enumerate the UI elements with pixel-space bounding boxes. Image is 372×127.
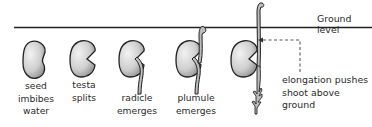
annotation-line: shoot above [282, 87, 368, 100]
label-line: imbibes [13, 93, 59, 106]
seed-stage-elongation [231, 3, 264, 114]
seed-stage-plumule [176, 26, 206, 94]
stage-label-testa: testa splits [64, 79, 104, 104]
annotation-line: elongation pushes [282, 74, 368, 87]
label-line: emerges [113, 105, 161, 118]
plumule-shoot [198, 26, 206, 63]
label-line: testa [64, 79, 104, 92]
stage-label-radicle: radicle emerges [113, 92, 161, 117]
ground-level-label: Ground level [317, 13, 372, 35]
stage-label-imbibes: seed imbibes water [13, 80, 59, 118]
elongated-shoot [257, 3, 264, 68]
label-line: seed [13, 80, 59, 93]
elongation-annotation: elongation pushes shoot above ground [282, 74, 368, 112]
label-line: emerges [171, 105, 221, 118]
label-line: splits [64, 92, 104, 105]
label-line: water [13, 105, 59, 118]
seed-stage-testa-splits [70, 41, 95, 77]
label-line: plumule [171, 92, 221, 105]
annotation-line: ground [282, 99, 368, 112]
stage-label-plumule: plumule emerges [171, 92, 221, 117]
seed-stage-radicle [119, 41, 144, 94]
seed-stage-imbibes [23, 41, 45, 78]
dashed-arrow [258, 38, 300, 73]
label-line: radicle [113, 92, 161, 105]
